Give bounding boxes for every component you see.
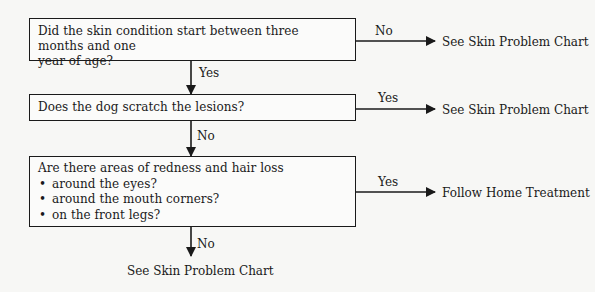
edge-label-q1-yes: Yes	[199, 66, 219, 80]
bullet-item: • around the mouth corners?	[38, 192, 347, 208]
question-1-line-1: Did the skin condition start between thr…	[38, 24, 347, 54]
edge-label-q3-yes: Yes	[378, 175, 398, 189]
question-box-2: Does the dog scratch the lesions?	[29, 94, 356, 121]
question-2-text: Does the dog scratch the lesions?	[38, 100, 347, 115]
bullet-item: • around the eyes?	[38, 177, 347, 193]
question-3-text: Are there areas of redness and hair loss	[38, 161, 347, 177]
bullet-icon: •	[39, 208, 46, 224]
bullet-icon: •	[39, 177, 46, 193]
edge-label-q3-no: No	[197, 237, 215, 251]
outcome-3: Follow Home Treatment	[442, 186, 590, 200]
bullet-text: around the eyes?	[52, 177, 157, 191]
bullet-item: • on the front legs?	[38, 208, 347, 224]
question-1-line-2: year of age?	[38, 54, 347, 69]
bullet-text: around the mouth corners?	[52, 192, 219, 206]
outcome-2: See Skin Problem Chart	[442, 103, 589, 117]
outcome-1: See Skin Problem Chart	[442, 35, 589, 49]
question-3-bullet-list: • around the eyes? • around the mouth co…	[38, 177, 347, 224]
edge-label-q2-no: No	[197, 129, 215, 143]
question-box-3: Are there areas of redness and hair loss…	[29, 156, 356, 227]
outcome-4: See Skin Problem Chart	[127, 264, 274, 278]
question-box-1: Did the skin condition start between thr…	[29, 18, 356, 61]
edge-label-q2-yes: Yes	[378, 91, 398, 105]
bullet-icon: •	[39, 192, 46, 208]
flowchart: Did the skin condition start between thr…	[0, 0, 595, 292]
bullet-text: on the front legs?	[52, 208, 160, 222]
edge-label-q1-no: No	[375, 24, 393, 38]
